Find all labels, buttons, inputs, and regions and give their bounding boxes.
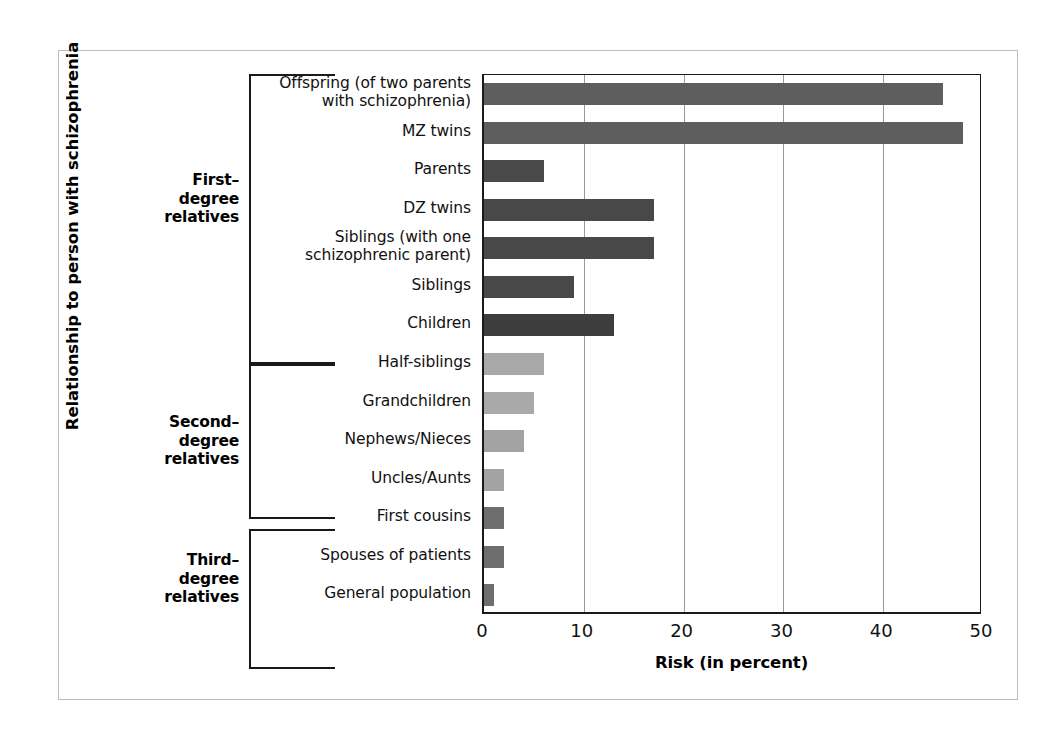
category-label: DZ twins	[211, 200, 471, 218]
bar	[484, 276, 574, 298]
bar-row	[484, 306, 980, 345]
category-label-line1: Spouses of patients	[211, 547, 471, 565]
bar-row	[484, 461, 980, 500]
category-label: Uncles/Aunts	[211, 470, 471, 488]
category-label-line1: Nephews/Nieces	[211, 431, 471, 449]
category-label-line2: with schizophrenia)	[211, 93, 471, 111]
category-label-line1: Half-siblings	[211, 354, 471, 372]
category-label-line1: Siblings (with one	[211, 229, 471, 247]
bar	[484, 469, 504, 491]
plot-area	[482, 74, 981, 614]
bar	[484, 353, 544, 375]
category-label-line1: Offspring (of two parents	[211, 75, 471, 93]
category-label: Grandchildren	[211, 393, 471, 411]
category-label: Siblings (with oneschizophrenic parent)	[211, 229, 471, 264]
category-label-line1: MZ twins	[211, 123, 471, 141]
category-label: Children	[211, 315, 471, 333]
group-label-second-degree-line1: Second–	[127, 413, 239, 432]
bar-row	[484, 191, 980, 230]
x-axis-tick-50: 50	[958, 620, 1004, 641]
x-axis-tick-30: 30	[758, 620, 804, 641]
bar	[484, 314, 614, 336]
category-label: General population	[211, 585, 471, 603]
category-label: MZ twins	[211, 123, 471, 141]
y-axis-title: Relationship to person with schizophreni…	[59, 1, 87, 471]
bar	[484, 199, 654, 221]
category-label-line1: Uncles/Aunts	[211, 470, 471, 488]
category-label-line1: General population	[211, 585, 471, 603]
category-label: Spouses of patients	[211, 547, 471, 565]
category-label: Nephews/Nieces	[211, 431, 471, 449]
bar-row	[484, 538, 980, 577]
x-axis-tick-10: 10	[559, 620, 605, 641]
category-label: Parents	[211, 161, 471, 179]
x-axis-tick-20: 20	[659, 620, 705, 641]
bar-row	[484, 229, 980, 268]
category-label-line1: Children	[211, 315, 471, 333]
bar-row	[484, 384, 980, 423]
bar	[484, 546, 504, 568]
category-label-line2: schizophrenic parent)	[211, 247, 471, 265]
category-label: Half-siblings	[211, 354, 471, 372]
category-label-line1: Parents	[211, 161, 471, 179]
bar	[484, 83, 943, 105]
x-axis-tick-0: 0	[459, 620, 505, 641]
bar	[484, 392, 534, 414]
bar	[484, 237, 654, 259]
figure-frame: Relationship to person with schizophreni…	[58, 50, 1018, 700]
x-axis-tick-40: 40	[858, 620, 904, 641]
bar-row	[484, 422, 980, 461]
bar	[484, 160, 544, 182]
category-label-line1: First cousins	[211, 508, 471, 526]
bar-row	[484, 114, 980, 153]
category-label: Siblings	[211, 277, 471, 295]
x-axis-title: Risk (in percent)	[482, 653, 981, 672]
bar-row	[484, 75, 980, 114]
bar-row	[484, 268, 980, 307]
bar-row	[484, 576, 980, 615]
category-label-line1: Siblings	[211, 277, 471, 295]
bar	[484, 430, 524, 452]
bar-row	[484, 345, 980, 384]
bar-row	[484, 499, 980, 538]
category-label: First cousins	[211, 508, 471, 526]
bar	[484, 584, 494, 606]
category-label: Offspring (of two parentswith schizophre…	[211, 75, 471, 110]
bar	[484, 507, 504, 529]
group-label-second-degree-line3: relatives	[127, 450, 239, 469]
bar-row	[484, 152, 980, 191]
bar	[484, 122, 963, 144]
category-label-line1: Grandchildren	[211, 393, 471, 411]
category-label-line1: DZ twins	[211, 200, 471, 218]
